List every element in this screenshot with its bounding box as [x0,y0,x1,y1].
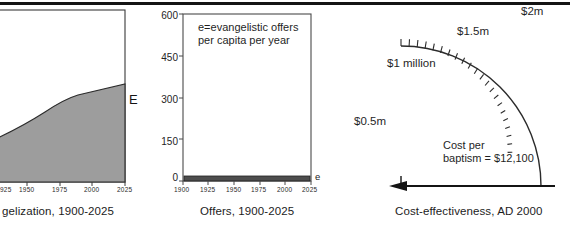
x-tick-1950: 1950 [226,186,241,193]
caption-offers: Offers, 1900-2025 [200,205,294,217]
arc-label-2m: $2m [521,5,543,17]
panel-offers: 600 450 300 150 0 [150,0,350,229]
x-tick-1950: 1950 [19,186,34,193]
x-tick-1925: 925 [0,186,11,193]
arc-label-1-5m: $1.5m [457,25,489,37]
x-tick-1900: 1900 [174,186,189,193]
cost-note-line-1: Cost per [443,139,485,153]
arc-label-1-million: $1 million [387,57,436,69]
y-axis-ticks [179,14,183,181]
x-tick-2025: 2025 [117,186,132,193]
caption-evangelization: gelization, 1900-2025 [2,205,114,217]
figure-three-panel-charts: E 925 1950 1975 2000 2025 gelization, 19… [0,0,570,229]
x-tick-2000: 2000 [84,186,99,193]
x-tick-1975: 1975 [251,186,266,193]
series-label-e: e [315,171,320,182]
x-tick-1975: 1975 [52,186,67,193]
series-label-E: E [129,92,138,107]
offers-annotation-line-1: e=evangelistic offers [198,21,298,35]
area-series-offers [184,176,310,181]
cost-note-line-2: baptism = $12,100 [443,152,534,166]
caption-cost-effectiveness: Cost-effectiveness, AD 2000 [395,205,543,217]
x-tick-2025: 2025 [302,186,317,193]
gauge-arrow-head-icon [389,181,407,191]
panel-cost: $2m $1.5m $1 million $0.5m Cost per bapt… [355,0,570,229]
x-tick-2000: 2000 [277,186,292,193]
x-axis-ticks [183,181,311,185]
x-tick-1925: 1925 [200,186,215,193]
offers-annotation-line-2: per capita per year [198,34,290,48]
gauge-tick-marks [401,39,512,152]
arc-label-0-5m: $0.5m [354,115,386,127]
